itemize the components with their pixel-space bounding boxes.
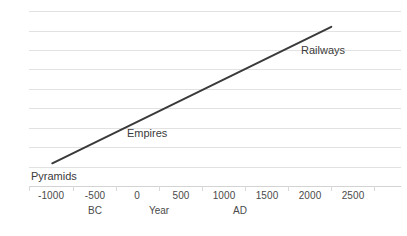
annotation-empires: Empires <box>127 127 167 139</box>
annotation-pyramids: Pyramids <box>31 170 77 182</box>
x-tick-label: -500 <box>85 190 105 201</box>
x-axis-tick <box>374 186 375 191</box>
gridline <box>29 167 401 168</box>
x-axis-tick <box>245 186 246 191</box>
x-axis-tick <box>202 186 203 191</box>
x-axis-tick <box>116 186 117 191</box>
x-axis-title: Year <box>149 205 169 216</box>
x-axis-tick <box>29 186 30 191</box>
x-axis-tick <box>331 186 332 191</box>
x-tick-label: 2500 <box>342 190 365 201</box>
annotation-railways: Railways <box>301 44 345 56</box>
plot-area <box>29 11 401 186</box>
era-label-bc: BC <box>88 205 102 216</box>
x-tick-label: 500 <box>173 190 190 201</box>
gridline <box>29 11 401 12</box>
x-axis-tick <box>73 186 74 191</box>
x-tick-label: 1500 <box>256 190 279 201</box>
gridline <box>29 147 401 148</box>
x-axis-tick <box>159 186 160 191</box>
x-axis-line <box>29 186 401 187</box>
era-label-ad: AD <box>233 205 247 216</box>
gridline <box>29 108 401 109</box>
x-tick-label: 1000 <box>213 190 236 201</box>
gridline <box>29 50 401 51</box>
x-tick-label: -1000 <box>38 190 64 201</box>
complexity-over-time-chart: Complexity -1000 -500 0 500 1000 1500 20… <box>0 0 407 236</box>
gridline <box>29 69 401 70</box>
x-tick-label: 2000 <box>299 190 322 201</box>
gridline <box>29 89 401 90</box>
gridline <box>29 31 401 32</box>
x-tick-label: 0 <box>134 190 140 201</box>
x-axis-tick <box>288 186 289 191</box>
gridline <box>29 128 401 129</box>
